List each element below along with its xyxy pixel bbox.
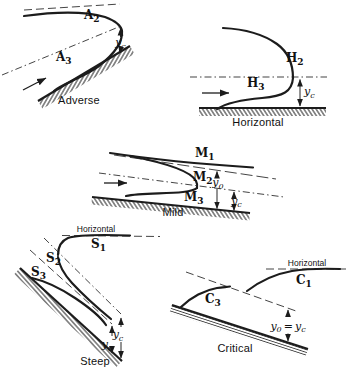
adverse-flow-arrow: [23, 78, 46, 90]
steep-yc-label: yc: [112, 328, 124, 343]
curve-h3-label: H3: [247, 76, 265, 92]
adverse-yc-label: yc: [114, 36, 126, 51]
steep-caption: Steep: [80, 355, 110, 367]
horizontal-yc-dimension: yc: [300, 80, 315, 107]
horizontal-yc-label: yc: [303, 85, 315, 100]
critical-panel: y0=yc Horizontal C3 C1 Critical: [170, 258, 350, 357]
curve-m3-label: M3: [184, 190, 204, 206]
curve-m1-label: M1: [195, 146, 215, 162]
curve-a2: [24, 13, 122, 31]
horizontal-panel: yc H2 H3 Horizontal: [190, 28, 327, 128]
curve-s3-label: S3: [31, 265, 46, 281]
adverse-panel: yc A2 A3 Adverse: [2, 4, 135, 109]
steep-panel: yc y0 Horizontal S1 S2 S3 Steep: [14, 224, 160, 368]
curve-c1: [247, 269, 340, 291]
adverse-caption: Adverse: [58, 94, 100, 106]
diagram-canvas: yc A2 A3 Adverse yc H2 H3 Horizontal: [0, 0, 359, 378]
horizontal-caption: Horizontal: [232, 116, 284, 128]
steep-y0-label: y0: [101, 338, 113, 353]
curve-a2-label: A2: [83, 8, 100, 24]
curve-s1-label: S1: [91, 237, 106, 253]
curve-c3-label: C3: [205, 292, 221, 308]
mild-caption: Mild: [163, 206, 184, 218]
critical-horizontal-ref-label: Horizontal: [288, 258, 326, 268]
curve-h2-label: H2: [286, 51, 304, 67]
mild-yc-dimension: yc: [230, 192, 242, 211]
curve-h2: [223, 28, 293, 78]
steep-y0-dimension: y0: [101, 326, 113, 353]
critical-y0-yc-dimension: y0=yc: [269, 310, 306, 341]
steep-horizontal-ref-label: Horizontal: [77, 224, 115, 234]
critical-y0-yc-label: y0=yc: [269, 320, 306, 335]
curve-a3-label: A3: [55, 50, 72, 66]
mild-y0-dimension: y0: [211, 172, 223, 209]
critical-caption: Critical: [217, 342, 252, 354]
mild-y0-label: y0: [211, 176, 223, 191]
mild-panel: y0 yc M1 M2 M3 Mild: [91, 146, 284, 221]
curve-c1-label: C1: [296, 273, 312, 289]
mild-yc-label: yc: [230, 195, 242, 210]
curve-m2-label: M2: [193, 170, 213, 186]
adverse-horizontal-asymptote-line: [24, 4, 120, 10]
gvf-profiles-diagram: yc A2 A3 Adverse yc H2 H3 Horizontal: [0, 0, 359, 378]
